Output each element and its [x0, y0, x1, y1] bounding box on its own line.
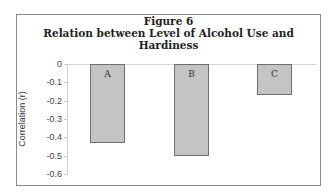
y-tick [64, 137, 67, 138]
bar-c: C [257, 64, 292, 95]
y-tick-label: 0 [36, 59, 62, 69]
y-tick-label: -0.5 [36, 151, 62, 161]
y-tick [64, 64, 67, 65]
bar-label: A [91, 69, 124, 79]
y-axis [67, 64, 68, 175]
y-tick-label: -0.6 [36, 169, 62, 179]
bar-b: B [174, 64, 209, 156]
y-tick [64, 82, 67, 83]
y-tick-label: -0.3 [36, 114, 62, 124]
y-tick [64, 174, 67, 175]
chart-title: Figure 6 Relation between Level of Alcoh… [16, 15, 321, 51]
y-tick [64, 119, 67, 120]
y-tick-label: -0.1 [36, 77, 62, 87]
figure-label: Figure 6 [16, 15, 321, 27]
bar-label: C [258, 69, 291, 79]
y-tick-label: -0.4 [36, 132, 62, 142]
bar-label: B [175, 69, 208, 79]
bar-a: A [90, 64, 125, 143]
y-tick-label: -0.2 [36, 96, 62, 106]
y-tick [64, 101, 67, 102]
y-tick [64, 156, 67, 157]
figure-title: Relation between Level of Alcohol Use an… [16, 27, 321, 51]
y-axis-label: Correlation (r) [17, 91, 27, 147]
